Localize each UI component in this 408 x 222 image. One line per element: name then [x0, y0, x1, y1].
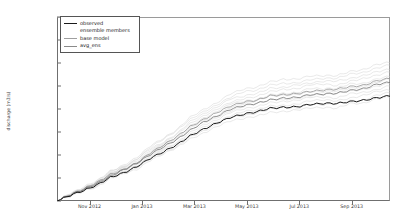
- legend-item[interactable]: avg_ens: [64, 42, 136, 50]
- ensemble-member-line: [57, 65, 390, 201]
- x-axis-tick-mark: [142, 201, 143, 205]
- legend-swatch-icon: [64, 23, 77, 24]
- legend-label: avg_ens: [80, 42, 101, 50]
- ensemble-member-line: [57, 76, 390, 201]
- x-axis-tick-label: Nov 2012: [78, 204, 101, 209]
- x-axis-tick-label: Jul 2013: [290, 204, 310, 209]
- legend-label: observed: [80, 20, 103, 28]
- chart-legend: observedensemble membersbase modelavg_en…: [60, 16, 140, 53]
- y-axis-label: discharge (m3/s): [6, 56, 11, 166]
- x-axis-tick-mark: [90, 201, 91, 205]
- series-line-avg-ens: [57, 82, 390, 201]
- legend-item[interactable]: base model: [64, 35, 136, 43]
- discharge-cumulative-chart: discharge (m3/s) 0100,000,000200,000,000…: [0, 0, 408, 222]
- x-axis-tick-label: Jan 2013: [131, 204, 152, 209]
- legend-label: base model: [80, 35, 109, 43]
- x-axis-tick-mark: [194, 201, 195, 205]
- legend-swatch-icon: [64, 46, 77, 47]
- ensemble-member-line: [57, 72, 390, 201]
- ensemble-member-line: [57, 62, 390, 201]
- x-axis-tick-label: Mar 2013: [183, 204, 206, 209]
- ensemble-member-line: [57, 86, 390, 201]
- ensemble-member-line: [57, 79, 390, 201]
- legend-item[interactable]: ensemble members: [64, 27, 136, 35]
- legend-item[interactable]: observed: [64, 20, 136, 28]
- series-line-base-model: [57, 78, 390, 201]
- x-axis-tick-mark: [247, 201, 248, 205]
- x-axis-tick-label: Sep 2013: [340, 204, 363, 209]
- legend-swatch-icon: [64, 38, 77, 39]
- x-axis-tick-mark: [299, 201, 300, 205]
- x-axis-tick-label: May 2013: [235, 204, 259, 209]
- x-axis-tick-mark: [352, 201, 353, 205]
- legend-label: ensemble members: [80, 27, 130, 35]
